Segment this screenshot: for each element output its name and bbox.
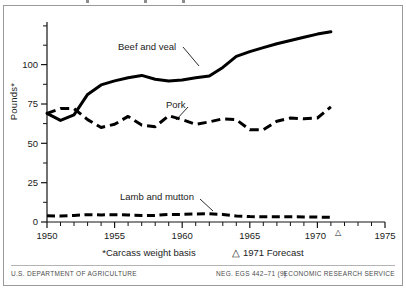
footer: U.S. DEPARTMENT OF AGRICULTURE NEG. EGS … — [11, 270, 395, 282]
lamb-leader-line — [200, 199, 213, 211]
footer-service: ECONOMIC RESEARCH SERVICE — [284, 270, 395, 277]
y-tick-label-0: 0 — [8, 216, 38, 227]
y-tick-label-100: 100 — [8, 59, 38, 70]
x-tick-label-1965: 1965 — [230, 230, 270, 241]
x-tick-label-1950: 1950 — [27, 230, 67, 241]
note-forecast: △ 1971 Forecast — [232, 247, 303, 258]
pork-label: Pork — [166, 99, 186, 110]
chart-page: Pounds* 100 75 50 25 0 1950 1955 1960 19… — [0, 0, 406, 290]
note-carcass-weight: *Carcass weight basis — [102, 247, 195, 258]
beef-and-veal-label: Beef and veal — [118, 41, 176, 52]
series-line-pork — [47, 107, 331, 130]
chart-notes: *Carcass weight basis △ 1971 Forecast — [0, 247, 406, 258]
y-tick-label-75: 75 — [8, 98, 38, 109]
x-tick-label-1955: 1955 — [95, 230, 135, 241]
x-tick-label-1970: 1970 — [295, 230, 335, 241]
annotation-leaders — [176, 47, 213, 211]
footer-divider — [11, 265, 395, 266]
footer-neg-number: NEG. EGS 442–71 (9) — [216, 270, 286, 277]
y-axis — [41, 22, 47, 222]
x-tick-label-1975: 1975 — [365, 230, 405, 241]
forecast-triangle-icon: △ — [335, 228, 341, 237]
series-line-beef-and-veal — [47, 32, 331, 121]
beef-leader-line — [183, 47, 199, 66]
footer-agency: U.S. DEPARTMENT OF AGRICULTURE — [11, 270, 137, 277]
y-tick-label-50: 50 — [8, 138, 38, 149]
y-tick-label-25: 25 — [8, 177, 38, 188]
series-line-lamb-and-mutton — [47, 214, 331, 218]
lamb-and-mutton-label: Lamb and mutton — [120, 191, 194, 202]
x-tick-label-1960: 1960 — [162, 230, 202, 241]
